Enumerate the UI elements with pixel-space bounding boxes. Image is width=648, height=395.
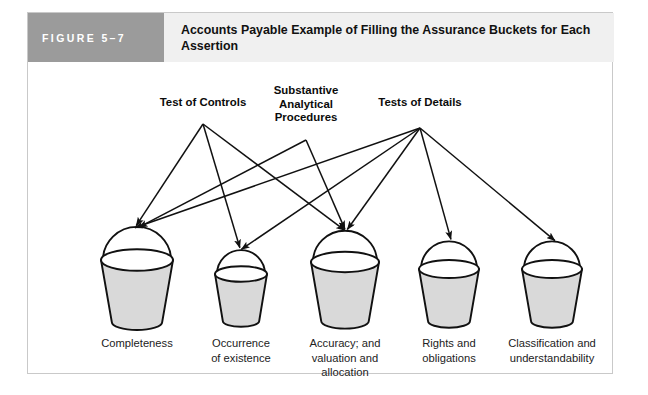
- bucket-rights-and-obligations: [419, 241, 479, 327]
- assertion-label-classification-and-understandability: Classification and understandability: [480, 336, 624, 365]
- bucket-classification-and-understandability: [522, 241, 582, 327]
- arrow-tests-of-details-to-rights-and-obligations: [420, 128, 451, 239]
- arrow-tests-of-details-to-classification-and-understandability: [420, 128, 555, 241]
- arrow-test-of-controls-to-occurrence-of-existence: [203, 124, 240, 248]
- figure-header: FIGURE 5–7 Accounts Payable Example of F…: [28, 13, 614, 62]
- source-label-test-of-controls: Test of Controls: [138, 96, 268, 110]
- bucket-rim-completeness: [101, 249, 173, 271]
- bucket-layer: [101, 227, 582, 330]
- figure-number-label: FIGURE 5–7: [42, 32, 126, 44]
- source-label-tests-of-details: Tests of Details: [358, 96, 482, 110]
- bucket-completeness: [101, 227, 173, 330]
- arrow-test-of-controls-to-accuracy-valuation-allocation: [203, 124, 345, 230]
- bucket-occurrence-of-existence: [215, 250, 267, 327]
- figure-title: Accounts Payable Example of Filling the …: [181, 22, 598, 54]
- bucket-rim-classification-and-understandability: [522, 260, 582, 278]
- source-label-substantive-analytical-procedures: Substantive Analytical Procedures: [256, 84, 356, 125]
- bucket-rim-occurrence-of-existence: [215, 266, 267, 282]
- bucket-accuracy-valuation-allocation: [311, 231, 379, 329]
- arrow-tests-of-details-to-occurrence-of-existence: [241, 128, 420, 249]
- assurance-bucket-diagram: Test of Controls Substantive Analytical …: [28, 62, 614, 374]
- arrow-tests-of-details-to-accuracy-valuation-allocation: [347, 128, 420, 230]
- figure-frame: FIGURE 5–7 Accounts Payable Example of F…: [27, 12, 613, 374]
- bucket-rim-rights-and-obligations: [419, 260, 479, 278]
- arrow-tests-of-details-to-completeness: [135, 128, 420, 228]
- assertion-label-accuracy-valuation-allocation: Accuracy; and valuation and allocation: [281, 336, 409, 380]
- figure-title-bar: Accounts Payable Example of Filling the …: [164, 13, 614, 62]
- bucket-rim-accuracy-valuation-allocation: [311, 252, 379, 272]
- figure-number-badge: FIGURE 5–7: [28, 13, 164, 62]
